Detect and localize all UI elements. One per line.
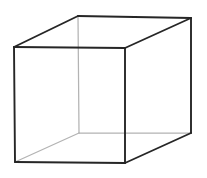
cube-edge-back-left xyxy=(78,16,79,133)
figure-canvas xyxy=(0,0,207,178)
hidden-edge-group xyxy=(15,16,191,162)
cube-edge-connect-bottom-right xyxy=(125,133,191,163)
cube-edge-connect-top-left xyxy=(14,16,78,47)
cube-edge-connect-bottom-left xyxy=(15,133,79,162)
cube-edge-connect-top-right xyxy=(125,18,191,48)
visible-edge-group xyxy=(14,16,191,163)
cube-edge-front-left xyxy=(14,47,15,162)
cube-edge-front-bottom xyxy=(15,162,125,163)
cube-edge-front-top xyxy=(14,47,125,48)
cube-edge-back-top xyxy=(78,16,191,18)
necker-cube-drawing xyxy=(0,0,207,178)
drawing-background xyxy=(0,0,207,178)
